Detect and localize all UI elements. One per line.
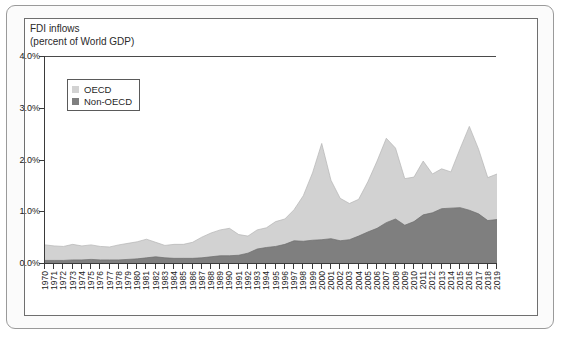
legend-swatch-non-oecd <box>72 98 79 105</box>
x-tick-mark <box>164 264 165 269</box>
x-tick-mark <box>44 264 45 269</box>
x-tick-mark <box>395 264 396 269</box>
x-tick-label: 1998 <box>298 271 308 290</box>
x-tick-mark <box>312 264 313 269</box>
x-tick-mark <box>238 264 239 269</box>
y-tick-label: 4.0% <box>6 51 40 61</box>
legend-item-oecd: OECD <box>72 83 132 95</box>
x-tick-mark <box>302 264 303 269</box>
x-tick-label: 2016 <box>464 271 474 290</box>
x-tick-mark <box>330 264 331 269</box>
x-tick-mark <box>118 264 119 269</box>
x-tick-mark <box>247 264 248 269</box>
chart-title-line-2: (percent of World GDP) <box>30 36 134 47</box>
x-tick-mark <box>109 264 110 269</box>
x-tick-label: 2019 <box>492 271 502 290</box>
x-tick-mark <box>358 264 359 269</box>
x-tick-mark <box>404 264 405 269</box>
x-tick-mark <box>127 264 128 269</box>
chart-legend: OECD Non-OECD <box>67 79 140 111</box>
x-tick-mark <box>468 264 469 269</box>
y-tick-label: 3.0% <box>6 103 40 113</box>
y-tick-label: 0.0% <box>6 258 40 268</box>
legend-item-non-oecd: Non-OECD <box>72 95 132 107</box>
x-tick-mark <box>450 264 451 269</box>
x-tick-label: 1999 <box>308 271 318 290</box>
y-tick-label: 2.0% <box>6 155 40 165</box>
x-tick-label: 1976 <box>95 271 105 290</box>
x-tick-mark <box>265 264 266 269</box>
legend-label-non-oecd: Non-OECD <box>84 96 132 107</box>
x-tick-mark <box>136 264 137 269</box>
x-tick-label: 2003 <box>344 271 354 290</box>
x-tick-mark <box>478 264 479 269</box>
x-tick-mark <box>62 264 63 269</box>
x-tick-mark <box>413 264 414 269</box>
y-axis: 0.0%1.0%2.0%3.0%4.0% <box>0 0 40 338</box>
x-tick-label: 2012 <box>427 271 437 290</box>
x-tick-mark <box>321 264 322 269</box>
x-tick-mark <box>145 264 146 269</box>
x-tick-mark <box>219 264 220 269</box>
x-tick-label: 1981 <box>141 271 151 290</box>
x-tick-mark <box>256 264 257 269</box>
chart-title: FDI inflows (percent of World GDP) <box>30 22 134 48</box>
x-tick-mark <box>155 264 156 269</box>
x-tick-mark <box>192 264 193 269</box>
x-tick-mark <box>431 264 432 269</box>
x-tick-mark <box>275 264 276 269</box>
x-tick-mark <box>422 264 423 269</box>
x-tick-label: 1985 <box>178 271 188 290</box>
x-tick-mark <box>459 264 460 269</box>
x-tick-mark <box>210 264 211 269</box>
x-tick-mark <box>441 264 442 269</box>
x-tick-mark <box>348 264 349 269</box>
x-tick-mark <box>99 264 100 269</box>
x-tick-label: 1990 <box>224 271 234 290</box>
legend-swatch-oecd <box>72 86 79 93</box>
x-tick-mark <box>201 264 202 269</box>
legend-label-oecd: OECD <box>84 84 111 95</box>
x-tick-mark <box>385 264 386 269</box>
x-tick-label: 1972 <box>58 271 68 290</box>
x-tick-mark <box>90 264 91 269</box>
x-tick-label: 1994 <box>261 271 271 290</box>
x-tick-mark <box>53 264 54 269</box>
x-tick-mark <box>339 264 340 269</box>
x-tick-mark <box>293 264 294 269</box>
x-tick-mark <box>284 264 285 269</box>
x-tick-mark <box>173 264 174 269</box>
x-tick-label: 2007 <box>381 271 391 290</box>
x-tick-mark <box>367 264 368 269</box>
x-tick-mark <box>376 264 377 269</box>
x-tick-mark <box>72 264 73 269</box>
x-tick-mark <box>496 264 497 269</box>
x-tick-mark <box>487 264 488 269</box>
x-tick-mark <box>182 264 183 269</box>
x-tick-mark <box>228 264 229 269</box>
x-tick-mark <box>81 264 82 269</box>
y-tick-label: 1.0% <box>6 206 40 216</box>
